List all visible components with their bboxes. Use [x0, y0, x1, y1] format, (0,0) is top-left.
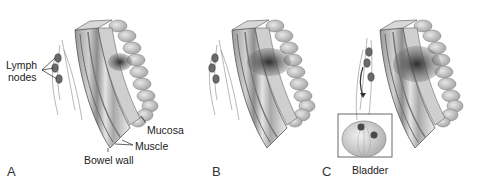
label-bladder: Bladder [352, 164, 388, 176]
panel-b-diagram [209, 20, 315, 148]
panel-letter-c: C [322, 164, 331, 179]
label-lymph: Lymph [6, 59, 37, 71]
label-mucosa: Mucosa [147, 124, 184, 136]
panel-a-diagram [42, 20, 158, 152]
label-bowel-wall: Bowel wall [84, 154, 134, 166]
tumor-muscle-invasion [247, 48, 291, 76]
figure-stage: Lymph nodes Mucosa Muscle Bowel wall A B… [0, 0, 485, 183]
panel-letter-b: B [212, 164, 221, 179]
label-muscle: Muscle [135, 140, 168, 152]
bowel-wall-diagram [0, 0, 485, 183]
panel-letter-a: A [7, 164, 16, 179]
spread-arrow [360, 67, 363, 96]
tumor-mucosa [108, 53, 132, 71]
bladder-diagram [338, 114, 392, 157]
tumor-full-thickness [393, 46, 441, 82]
label-nodes: nodes [8, 71, 37, 83]
